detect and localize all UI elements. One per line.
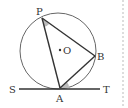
label-b: B bbox=[97, 51, 104, 62]
label-o: O bbox=[63, 45, 71, 56]
label-p: P bbox=[36, 6, 43, 17]
label-t: T bbox=[103, 84, 110, 95]
label-a: A bbox=[55, 93, 64, 104]
diagram-canvas: P O B A S T bbox=[0, 0, 128, 108]
label-s: S bbox=[9, 84, 16, 95]
geometry-diagram: P O B A S T bbox=[0, 0, 128, 108]
center-point-o bbox=[59, 49, 61, 51]
